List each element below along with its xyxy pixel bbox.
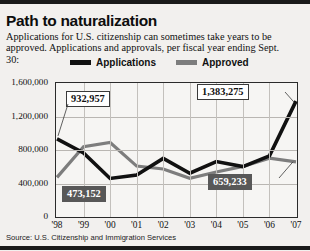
callout-leader-lines xyxy=(0,0,310,251)
